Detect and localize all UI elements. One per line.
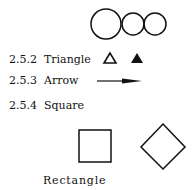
right-arrow [97, 79, 142, 84]
outline-triangle [104, 53, 116, 63]
small-circle [122, 13, 144, 35]
section-number-square: 2.5.4 [9, 99, 37, 112]
shapes-diagram: 2.5.2 Triangle 2.5.3 Arrow 2.5.4 Square … [0, 0, 196, 190]
diamond [141, 124, 185, 169]
section-title-square: Square [44, 99, 84, 112]
large-circle [91, 9, 121, 39]
rectangle-caption: Rectangle [43, 174, 106, 187]
section-title-arrow: Arrow [43, 74, 79, 87]
filled-triangle [131, 53, 143, 63]
section-title-triangle: Triangle [44, 53, 91, 66]
small-circle [144, 13, 166, 35]
section-number-triangle: 2.5.2 [9, 53, 37, 66]
square [79, 130, 111, 162]
section-number-arrow: 2.5.3 [9, 74, 37, 87]
